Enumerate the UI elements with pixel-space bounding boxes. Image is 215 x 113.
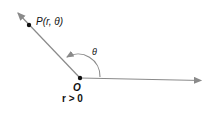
condition-label: r > 0 <box>62 93 83 104</box>
polar-axis-ray <box>80 78 201 81</box>
origin-label: O <box>73 82 81 93</box>
angle-arc <box>67 54 100 77</box>
polar-diagram <box>0 0 215 113</box>
origin-point <box>78 76 82 80</box>
point-p <box>27 23 31 27</box>
point-label: P(r, θ) <box>36 16 63 27</box>
angle-label: θ <box>92 47 97 57</box>
